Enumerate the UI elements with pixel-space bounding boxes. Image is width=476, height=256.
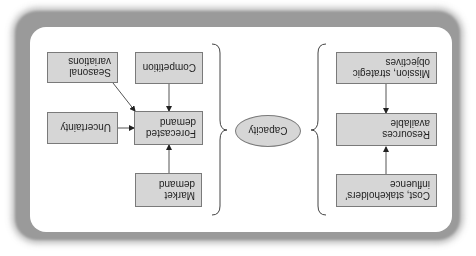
box-forecasted-label: Forecasted demand [141, 117, 196, 139]
box-cost: Cost, stakeholders' influence [336, 174, 437, 207]
box-mission: Mission, strategic objectives [336, 52, 437, 84]
box-uncertainty-label: Uncertainty [60, 123, 111, 134]
capacity-ellipse: Capacity [235, 115, 301, 147]
box-uncertainty: Uncertainty [47, 112, 118, 144]
box-market-label: Market demand [142, 179, 195, 201]
arrow-seasonal-to-forecasted [113, 83, 135, 111]
capacity-label: Capacity [249, 126, 288, 137]
box-competition: Competition [135, 52, 203, 84]
box-cost-label: Cost, stakeholders' influence [343, 180, 430, 202]
diagram-stage: Mission, strategic objectives Resources … [0, 0, 476, 256]
brace-supply [311, 44, 326, 215]
box-competition-label: Competition [143, 63, 196, 74]
box-mission-label: Mission, strategic objectives [343, 57, 430, 79]
box-seasonal-label: Seasonal variations [54, 57, 111, 79]
box-resources: Resources available [336, 113, 437, 146]
box-forecasted: Forecasted demand [134, 111, 203, 145]
box-resources-label: Resources available [343, 119, 430, 141]
brace-demand [212, 44, 227, 215]
box-seasonal: Seasonal variations [47, 52, 118, 83]
box-market: Market demand [135, 173, 202, 207]
